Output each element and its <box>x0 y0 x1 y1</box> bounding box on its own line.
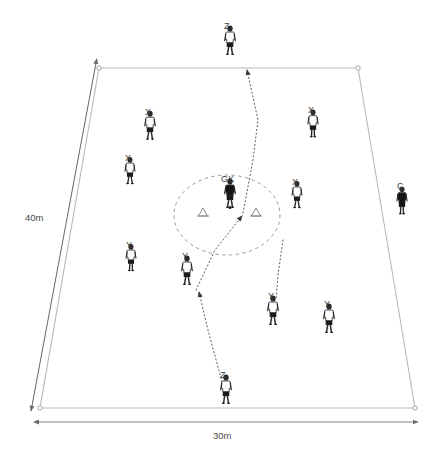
player-label-x-1: X <box>145 107 151 117</box>
figure-shirt <box>126 163 134 173</box>
cone-left <box>199 208 208 216</box>
drill-diagram-canvas: ZXXXXGKYYYYZC 40m 30m <box>0 0 442 460</box>
player-label-x-2: X <box>125 153 131 163</box>
figure-leg-right <box>298 201 299 207</box>
field-outline <box>38 66 417 410</box>
figure-foot-right <box>188 284 191 286</box>
figure-shorts <box>399 203 405 207</box>
figure-leg-left <box>228 200 229 207</box>
figure-leg-right <box>188 277 189 284</box>
figure-shirt <box>127 250 135 260</box>
figure-foot-right <box>274 324 277 326</box>
figure-shirt <box>325 310 334 321</box>
figure-shorts <box>294 197 300 201</box>
field-corner-marker-top-left <box>97 66 101 70</box>
figure-shirt <box>309 116 317 126</box>
height-dimension <box>31 63 96 411</box>
field-boundary <box>40 68 415 408</box>
path-x4-down <box>276 240 283 300</box>
figure-leg-left <box>128 177 129 183</box>
figure-shirt <box>226 185 235 196</box>
figure-foot-right <box>227 403 230 405</box>
figure-shorts <box>270 313 277 317</box>
figure-leg-right <box>131 177 132 183</box>
soccer-ball <box>229 206 232 209</box>
figure-shirt <box>269 302 278 313</box>
cones-layer <box>197 208 262 216</box>
figure-foot-left <box>183 284 186 286</box>
field-corner-marker-top-right <box>356 66 360 70</box>
figure-foot-right <box>402 213 405 215</box>
figure-leg-left <box>295 201 296 207</box>
figure-shorts <box>223 392 230 396</box>
figure-leg-left <box>185 277 186 284</box>
figure-foot-right <box>131 183 134 184</box>
dimension-label-width: 30m <box>213 430 231 441</box>
player-label-x-4: X <box>292 177 298 187</box>
figure-foot-left <box>269 324 272 326</box>
figure-leg-left <box>224 396 225 403</box>
figure-leg-right <box>274 317 275 324</box>
figure-foot-left <box>126 183 129 184</box>
figure-shirt <box>222 381 231 392</box>
figure-leg-right <box>151 132 152 139</box>
figure-leg-right <box>227 396 228 403</box>
figure-shorts <box>127 173 133 177</box>
figure-foot-left <box>310 136 313 138</box>
figure-foot-right <box>131 270 134 271</box>
figure-leg-right <box>231 200 232 207</box>
figure-foot-right <box>330 332 333 334</box>
diagram-vector-layer <box>0 0 442 460</box>
figure-shorts <box>227 43 234 47</box>
figure-foot-left <box>226 54 229 56</box>
figure-foot-left <box>226 207 229 209</box>
player-label-y-3: Y <box>268 291 274 301</box>
figure-shirt <box>293 187 301 197</box>
figure-leg-left <box>148 132 149 139</box>
figure-leg-left <box>271 317 272 324</box>
figure-foot-left <box>146 138 149 140</box>
figure-foot-left <box>293 207 296 208</box>
path-gk-to-z-top <box>243 70 258 213</box>
movement-paths-layer <box>196 70 283 382</box>
figure-shorts <box>227 196 234 200</box>
figure-leg-left <box>327 325 328 332</box>
figure-leg-right <box>231 47 232 54</box>
figure-foot-right <box>231 207 234 209</box>
figure-shirt <box>183 262 192 273</box>
figure-leg-right <box>330 325 331 332</box>
cone-right <box>252 208 261 216</box>
player-label-coach: C <box>397 181 404 191</box>
figure-foot-right <box>313 136 316 138</box>
figure-foot-left <box>128 270 131 271</box>
player-label-y-4: Y <box>324 299 330 309</box>
player-label-y-1: Y <box>126 240 132 250</box>
player-label-z-bottom: Z <box>220 370 226 380</box>
path-y2-to-gk-zone <box>196 216 242 290</box>
figure-shorts <box>326 321 333 325</box>
figure-shorts <box>184 273 191 277</box>
dimension-label-height: 40m <box>25 212 43 223</box>
figure-foot-left <box>325 332 328 334</box>
player-label-y-2: Y <box>182 251 188 261</box>
dimension-lines-layer <box>31 63 418 422</box>
figure-foot-left <box>399 213 402 215</box>
player-label-z-top: Z <box>224 21 230 31</box>
field-corner-marker-bottom-left <box>38 406 42 410</box>
path-z-bottom-to-y2 <box>199 292 222 382</box>
figure-shorts <box>147 128 153 132</box>
figure-shirt <box>226 32 235 43</box>
player-label-gk: GK <box>221 174 235 184</box>
figure-shirt <box>398 193 406 203</box>
figure-shorts <box>310 126 316 130</box>
figure-foot-right <box>231 54 234 56</box>
figure-foot-right <box>298 207 301 208</box>
player-figures-layer <box>125 25 407 404</box>
figure-leg-left <box>228 47 229 54</box>
figure-foot-left <box>222 403 225 405</box>
player-label-x-3: X <box>308 105 314 115</box>
figure-foot-right <box>151 138 154 140</box>
figure-shorts <box>128 260 134 264</box>
figure-shirt <box>146 117 155 128</box>
field-corner-marker-bottom-right <box>413 406 417 410</box>
